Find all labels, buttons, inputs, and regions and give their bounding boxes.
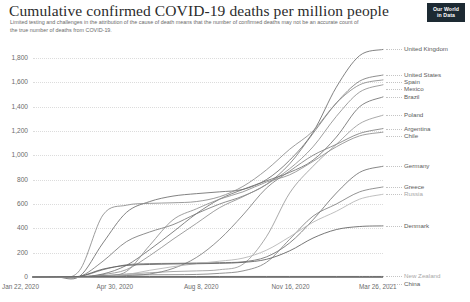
series-label-united-kingdom[interactable]: United Kingdom [404,45,448,52]
label-leader-line [386,136,402,137]
series-label-china[interactable]: China [404,280,420,287]
label-leader-line [386,89,402,90]
series-label-poland[interactable]: Poland [404,111,423,118]
series-line[interactable] [33,115,383,277]
series-line[interactable] [33,75,383,278]
label-leader-line [386,226,402,227]
series-line[interactable] [33,80,383,278]
label-leader-line [386,82,402,83]
label-leader-line [386,49,402,50]
label-leader-line [386,194,402,195]
label-leader-line [386,284,402,285]
series-label-greece[interactable]: Greece [404,183,424,190]
series-label-chile[interactable]: Chile [404,132,418,139]
series-label-spain[interactable]: Spain [404,78,420,85]
chart-page: Cumulative confirmed COVID-19 deaths per… [0,0,470,302]
series-label-argentina[interactable]: Argentina [404,125,431,132]
series-label-brazil[interactable]: Brazil [404,93,419,100]
series-line[interactable] [33,49,383,278]
series-lines [0,40,470,302]
series-label-denmark[interactable]: Denmark [404,222,429,229]
series-line[interactable] [33,129,383,277]
plot-area: 02004006008001,0001,2001,4001,6001,800 J… [0,40,470,302]
series-line[interactable] [33,166,383,277]
series-label-new-zealand[interactable]: New Zealand [404,272,440,279]
our-world-in-data-logo[interactable]: Our World in Data [427,3,465,22]
label-leader-line [386,115,402,116]
chart-subtitle: Limited testing and challenges in the at… [10,19,360,34]
series-label-mexico[interactable]: Mexico [404,85,424,92]
series-label-russia[interactable]: Russia [404,190,423,197]
series-line[interactable] [33,132,383,277]
page-title: Cumulative confirmed COVID-19 deaths per… [9,2,389,20]
series-label-united-states[interactable]: United States [404,71,441,78]
label-leader-line [386,187,402,188]
series-label-germany[interactable]: Germany [404,162,429,169]
label-leader-line [386,129,402,130]
logo-line-2: in Data [427,12,465,18]
series-line[interactable] [33,85,383,277]
label-leader-line [386,75,402,76]
label-leader-line [386,97,402,98]
label-leader-line [386,276,402,277]
label-leader-line [386,166,402,167]
